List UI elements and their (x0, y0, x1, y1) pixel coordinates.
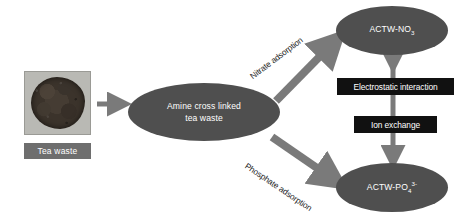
node-nitrate-label-subscript: 3 (411, 28, 415, 35)
photo-texture-overlay (25, 72, 90, 134)
tea-waste-photo (24, 71, 91, 135)
node-center-label-line1: Amine cross linked (167, 101, 241, 111)
node-center-label: Amine cross linked tea waste (167, 100, 241, 124)
tea-waste-caption: Tea waste (24, 143, 91, 159)
node-phosphate-label-text: ACTW-PO (367, 182, 408, 192)
node-phosphate-label-superscript: 3- (411, 180, 417, 187)
node-nitrate-label: ACTW-NO3 (369, 23, 414, 39)
node-amine-cross-linked-tea-waste: Amine cross linked tea waste (128, 83, 280, 141)
node-actw-nitrate: ACTW-NO3 (336, 6, 448, 55)
node-nitrate-label-text: ACTW-NO (369, 24, 411, 34)
node-phosphate-label-subscript: 4 (408, 187, 412, 194)
node-phosphate-label: ACTW-PO43- (367, 178, 417, 197)
node-actw-phosphate: ACTW-PO43- (336, 163, 448, 212)
process-flow-diagram: Tea waste Amine cross linked tea waste A… (0, 0, 471, 223)
mechanism-box-ion-exchange: Ion exchange (354, 116, 437, 133)
node-center-label-line2: tea waste (185, 113, 223, 123)
arrow-phosphate-adsorption (272, 137, 333, 179)
mechanism-box-electrostatic-interaction: Electrostatic interaction (337, 78, 454, 95)
